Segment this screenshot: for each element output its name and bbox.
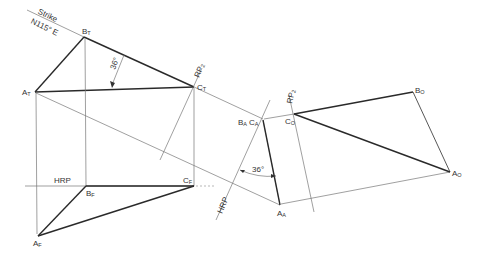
edge-co-ao xyxy=(294,114,450,172)
label-ao: AO xyxy=(452,169,462,178)
label-af: AF xyxy=(33,239,42,248)
edge-bt-ct xyxy=(84,37,194,87)
label-ct: CT xyxy=(197,83,207,92)
label-cf: CF xyxy=(183,176,193,185)
label-bt: BT xyxy=(82,27,91,36)
descriptive-geometry-drawing: Strike N115° E BT AT CT 36° RP2 HRP BF C… xyxy=(0,0,483,255)
label-rp2-top: RP2 xyxy=(193,62,207,79)
projector-b xyxy=(85,38,86,186)
label-ba-ca: BACA xyxy=(238,118,259,127)
label-hrp-front: HRP xyxy=(54,176,71,185)
label-bf: BF xyxy=(86,189,95,198)
dip-arrow-head xyxy=(110,81,115,88)
label-hrp-aux: HRP xyxy=(216,196,231,215)
label-angle-top: 36° xyxy=(108,56,121,70)
label-aa: AA xyxy=(277,209,286,218)
edge-at-bt xyxy=(35,37,84,92)
label-at: AT xyxy=(22,88,31,97)
edge-ba-aa[interactable] xyxy=(263,120,280,205)
label-rp2-right: RP2 xyxy=(285,89,297,105)
edge-at-ct xyxy=(35,87,194,92)
label-bo: BO xyxy=(415,86,425,95)
projector-a xyxy=(36,93,37,234)
edge-co-bo xyxy=(294,92,413,114)
label-angle-aux: 36° xyxy=(252,165,264,174)
